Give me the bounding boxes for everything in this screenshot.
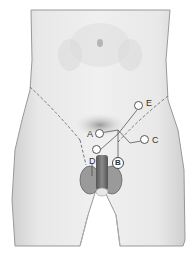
marker-e[interactable]: [134, 101, 143, 110]
marker-unlabeled[interactable]: [92, 145, 101, 154]
label-a: A: [87, 130, 93, 139]
label-b: B: [115, 158, 121, 167]
label-e: E: [146, 99, 152, 108]
glans: [96, 188, 108, 196]
label-d: D: [89, 157, 96, 166]
penile-shaft: [96, 155, 108, 190]
marker-a[interactable]: [95, 129, 104, 138]
navel: [97, 39, 103, 47]
marker-b[interactable]: B: [112, 157, 124, 169]
label-c: C: [152, 136, 159, 145]
marker-c[interactable]: [140, 135, 149, 144]
